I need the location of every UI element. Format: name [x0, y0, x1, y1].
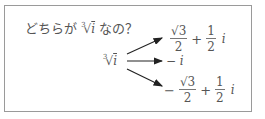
result-root-1: √32 + 12 i — [168, 25, 226, 53]
fraction: 12 — [215, 76, 225, 104]
arrow-down-icon — [127, 69, 162, 86]
arrow-up-icon — [127, 38, 162, 54]
result-root-2: − i — [166, 54, 184, 68]
fraction: √32 — [170, 25, 187, 53]
result-root-3: − √32 + 12 i — [162, 76, 235, 104]
fraction: 12 — [206, 25, 216, 53]
fraction: √32 — [179, 76, 196, 104]
